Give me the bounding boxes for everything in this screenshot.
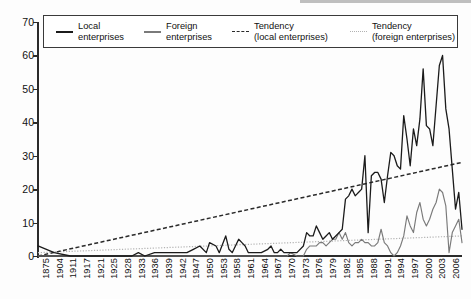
chart-page: Local enterprises Foreign enterprises Te… xyxy=(0,0,471,299)
x-tick-label-1928: 1928 xyxy=(123,258,133,279)
x-tick-label-1985: 1985 xyxy=(355,258,365,279)
y-tick-mark xyxy=(33,189,38,190)
x-tick-label-1961: 1961 xyxy=(246,258,256,279)
y-tick-label-40: 40 xyxy=(8,116,34,128)
y-tick-label-50: 50 xyxy=(8,83,34,95)
x-tick-label-1994: 1994 xyxy=(396,258,406,279)
x-tick-label-2003: 2003 xyxy=(437,258,447,279)
x-tick-label-1979: 1979 xyxy=(328,258,338,279)
y-tick-mark xyxy=(33,256,38,257)
y-tick-label-30: 30 xyxy=(8,150,34,162)
scan-artifact-edge xyxy=(300,0,471,3)
x-tick-label-1942: 1942 xyxy=(178,258,188,279)
y-tick-mark xyxy=(33,89,38,90)
x-tick-label-1875: 1875 xyxy=(41,258,51,279)
y-tick-label-0: 0 xyxy=(8,250,34,262)
y-tick-label-10: 10 xyxy=(8,217,34,229)
x-tick-label-1953: 1953 xyxy=(219,258,229,279)
y-tick-label-60: 60 xyxy=(8,49,34,61)
x-tick-label-1988: 1988 xyxy=(369,258,379,279)
x-tick-label-1904: 1904 xyxy=(55,258,65,279)
plot-area xyxy=(38,22,462,256)
x-tick-label-1933: 1933 xyxy=(137,258,147,279)
series-line-local-enterprises xyxy=(38,55,462,256)
x-tick-label-1991: 1991 xyxy=(383,258,393,279)
y-tick-mark xyxy=(33,22,38,23)
x-tick-label-1958: 1958 xyxy=(232,258,242,279)
x-tick-label-1964: 1964 xyxy=(260,258,270,279)
y-tick-label-20: 20 xyxy=(8,183,34,195)
x-tick-label-1939: 1939 xyxy=(164,258,174,279)
x-tick-label-2000: 2000 xyxy=(424,258,434,279)
x-tick-label-2006: 2006 xyxy=(451,258,461,279)
x-tick-label-1976: 1976 xyxy=(314,258,324,279)
x-tick-label-1970: 1970 xyxy=(287,258,297,279)
x-tick-label-1973: 1973 xyxy=(301,258,311,279)
series-canvas xyxy=(38,22,462,256)
y-tick-mark xyxy=(33,156,38,157)
x-tick-label-1950: 1950 xyxy=(205,258,215,279)
x-tick-label-1925: 1925 xyxy=(109,258,119,279)
y-tick-mark xyxy=(33,55,38,56)
x-tick-label-1982: 1982 xyxy=(342,258,352,279)
x-tick-label-1921: 1921 xyxy=(96,258,106,279)
y-axis-tick-labels: 010203040506070 xyxy=(4,22,34,256)
x-tick-label-1911: 1911 xyxy=(68,258,78,278)
y-tick-mark xyxy=(33,122,38,123)
x-axis-tick-labels: 1875190419111917192119251928193319361939… xyxy=(38,258,462,299)
trendline-tendency-local-enterprises xyxy=(38,162,462,256)
x-tick-label-1917: 1917 xyxy=(82,258,92,279)
x-tick-label-1947: 1947 xyxy=(191,258,201,279)
series-line-foreign-enterprises xyxy=(38,189,462,256)
x-tick-label-1997: 1997 xyxy=(410,258,420,279)
x-tick-label-1967: 1967 xyxy=(273,258,283,279)
y-tick-label-70: 70 xyxy=(8,16,34,28)
y-tick-mark xyxy=(33,223,38,224)
x-tick-label-1936: 1936 xyxy=(150,258,160,279)
